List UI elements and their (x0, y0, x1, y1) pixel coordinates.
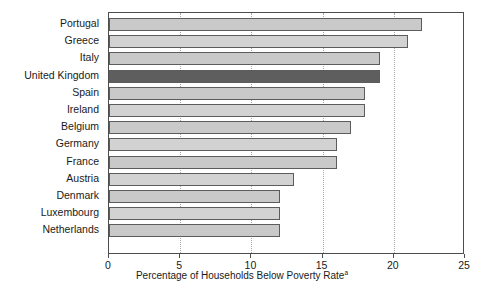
x-tick-mark-5 (179, 254, 180, 258)
plot-area (108, 12, 464, 254)
bar-spain (109, 87, 365, 100)
bar-denmark (109, 190, 280, 203)
bar-belgium (109, 121, 351, 134)
bar-united-kingdom (109, 70, 380, 83)
bar-france (109, 156, 337, 169)
category-label-united-kingdom: United Kingdom (0, 69, 104, 82)
bar-italy (109, 52, 380, 65)
x-axis-title: Percentage of Households Below Poverty R… (0, 270, 484, 281)
category-label-belgium: Belgium (0, 120, 104, 133)
category-label-spain: Spain (0, 86, 104, 99)
x-tick-mark-15 (322, 254, 323, 258)
x-axis-title-text: Percentage of Households Below Poverty R… (136, 270, 344, 281)
x-tick-mark-20 (393, 254, 394, 258)
category-label-germany: Germany (0, 137, 104, 150)
category-label-portugal: Portugal (0, 17, 104, 30)
category-label-denmark: Denmark (0, 189, 104, 202)
category-label-netherlands: Netherlands (0, 223, 104, 236)
bar-netherlands (109, 224, 280, 237)
bar-luxembourg (109, 207, 280, 220)
poverty-rate-bar-chart: PortugalGreeceItalyUnited KingdomSpainIr… (0, 0, 484, 290)
x-axis-title-superscript: a (344, 269, 348, 276)
category-label-france: France (0, 155, 104, 168)
category-axis-labels: PortugalGreeceItalyUnited KingdomSpainIr… (0, 12, 104, 254)
x-tick-mark-10 (250, 254, 251, 258)
bar-austria (109, 173, 294, 186)
bar-ireland (109, 104, 365, 117)
bars-layer (109, 13, 463, 253)
bar-portugal (109, 18, 422, 31)
category-label-luxembourg: Luxembourg (0, 206, 104, 219)
category-label-italy: Italy (0, 51, 104, 64)
category-label-ireland: Ireland (0, 103, 104, 116)
bar-greece (109, 35, 408, 48)
category-label-austria: Austria (0, 172, 104, 185)
x-tick-mark-0 (108, 254, 109, 258)
bar-germany (109, 138, 337, 151)
x-tick-mark-25 (464, 254, 465, 258)
category-label-greece: Greece (0, 34, 104, 47)
